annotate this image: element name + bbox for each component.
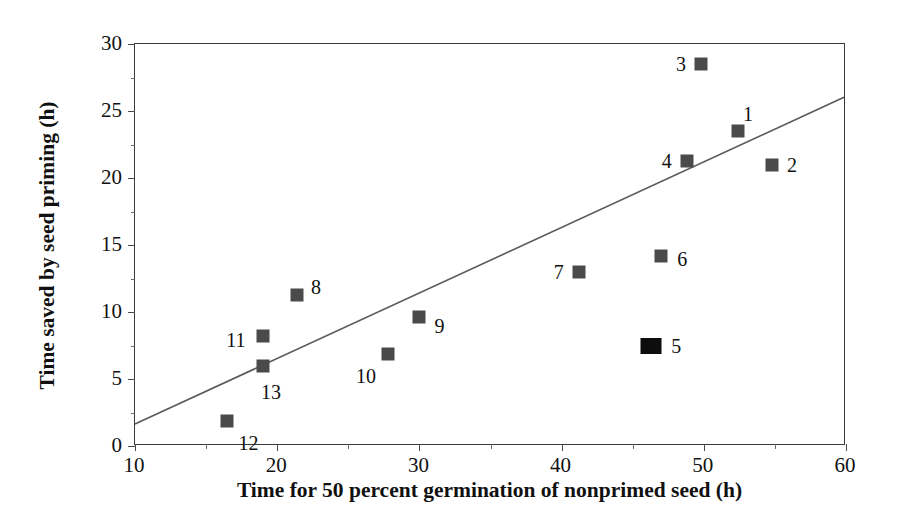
y-tick-label: 10 (76, 299, 122, 324)
data-point-label: 1 (743, 103, 753, 126)
data-point-label: 9 (434, 315, 444, 338)
data-point-label: 10 (356, 364, 376, 387)
x-tick-major (704, 444, 705, 451)
data-point-marker (680, 154, 693, 167)
data-point-label: 7 (554, 260, 564, 283)
data-point-label: 6 (677, 247, 687, 270)
x-tick-minor (775, 444, 776, 449)
x-tick-minor (348, 444, 349, 449)
x-tick-minor (491, 444, 492, 449)
data-point-marker (413, 311, 426, 324)
y-tick-minor (131, 145, 136, 146)
data-point-marker (572, 265, 585, 278)
y-tick-label: 20 (76, 165, 122, 190)
data-point-marker (641, 338, 662, 354)
x-tick-major (562, 444, 563, 451)
y-tick-minor (131, 212, 136, 213)
x-tick-major (846, 444, 847, 451)
y-tick-major (128, 178, 135, 179)
y-tick-label: 30 (76, 31, 122, 56)
y-tick-major (128, 312, 135, 313)
x-tick-label: 40 (531, 453, 591, 478)
scatter-chart-figure: Time saved by seed priming (h) 123456789… (0, 0, 903, 521)
data-point-marker (291, 288, 304, 301)
x-tick-major (419, 444, 420, 451)
y-axis-title: Time saved by seed priming (h) (35, 36, 60, 456)
data-point-label: 11 (226, 329, 245, 352)
data-point-marker (382, 347, 395, 360)
x-tick-minor (206, 444, 207, 449)
data-point-label: 12 (238, 431, 258, 454)
data-point-marker (655, 249, 668, 262)
data-point-marker (221, 414, 234, 427)
x-tick-minor (633, 444, 634, 449)
y-tick-minor (131, 279, 136, 280)
data-point-label: 13 (261, 380, 281, 403)
data-point-marker (694, 58, 707, 71)
data-point-label: 8 (311, 275, 321, 298)
y-tick-major (128, 44, 135, 45)
data-point-marker (731, 125, 744, 138)
y-tick-minor (131, 78, 136, 79)
x-tick-major (277, 444, 278, 451)
x-tick-label: 20 (246, 453, 306, 478)
data-point-label: 5 (671, 334, 681, 357)
data-point-label: 2 (787, 153, 797, 176)
y-tick-major (128, 111, 135, 112)
y-tick-minor (131, 346, 136, 347)
y-tick-label: 25 (76, 98, 122, 123)
y-tick-label: 15 (76, 232, 122, 257)
x-tick-label: 30 (388, 453, 448, 478)
data-point-marker (766, 158, 779, 171)
x-tick-major (135, 444, 136, 451)
plot-area: 12345678910111213 (134, 43, 845, 445)
x-axis-title: Time for 50 percent germination of nonpr… (134, 478, 845, 503)
data-point-marker (256, 330, 269, 343)
y-tick-label: 5 (76, 366, 122, 391)
data-point-marker (256, 359, 269, 372)
data-point-label: 3 (676, 53, 686, 76)
trendline (135, 44, 844, 444)
y-tick-major (128, 446, 135, 447)
x-tick-label: 10 (104, 453, 164, 478)
x-tick-label: 50 (673, 453, 733, 478)
data-point-label: 4 (662, 149, 672, 172)
y-tick-major (128, 245, 135, 246)
x-tick-label: 60 (815, 453, 875, 478)
y-tick-major (128, 379, 135, 380)
y-tick-minor (131, 413, 136, 414)
